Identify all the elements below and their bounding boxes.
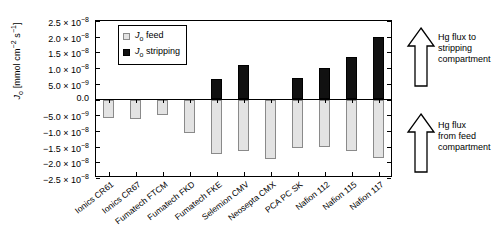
x-tick-mark-zero <box>379 99 380 103</box>
chart-legend: Jo feedJo stripping <box>118 25 187 65</box>
x-tick-mark-zero <box>217 99 218 103</box>
y-tick-label: 1.5 × 10−8 <box>48 46 89 59</box>
arrow-up-stripping-icon <box>406 26 436 88</box>
y-tick-label: −2.0 × 10−8 <box>43 156 89 169</box>
bar-feed <box>346 100 357 152</box>
x-tick-mark <box>244 172 245 176</box>
x-tick-mark-zero <box>244 99 245 103</box>
x-tick-mark <box>217 172 218 176</box>
x-tick-mark-zero <box>352 99 353 103</box>
annotation-flux-from-feed: Hg fluxfrom feedcompartment <box>438 120 502 153</box>
legend-swatch <box>123 33 130 40</box>
bar-stripping <box>211 79 222 99</box>
legend-label: Jo feed <box>135 29 163 45</box>
legend-swatch <box>123 49 130 56</box>
x-tick-mark-zero <box>136 99 137 103</box>
bar-feed <box>292 100 303 149</box>
annotation-line: stripping <box>438 43 502 54</box>
x-tick-mark-zero <box>298 99 299 103</box>
y-tick-label: 5.0 × 10−9 <box>48 78 89 91</box>
annotation-line: compartment <box>438 142 502 153</box>
y-tick-label: −1.0 × 10−8 <box>43 125 89 138</box>
bar-stripping <box>319 68 330 99</box>
y-tick-label: −5.0 × 10−9 <box>43 109 89 122</box>
y-tick-label: 2.5 × 10−8 <box>48 15 89 28</box>
bar-feed <box>184 100 195 134</box>
annotation-line: Hg flux to <box>438 32 502 43</box>
annotation-line: Hg flux <box>438 120 502 131</box>
x-tick-mark <box>136 172 137 176</box>
y-tick-label: 2.0 × 10−8 <box>48 31 89 44</box>
chart-figure: Jo [mmol cm−2 s−1] 2.5 × 10−82.0 × 10−81… <box>0 0 504 241</box>
legend-item: Jo feed <box>123 29 180 45</box>
bar-stripping <box>238 65 249 100</box>
x-tick-mark-zero <box>190 99 191 103</box>
x-tick-mark-zero <box>163 99 164 103</box>
bar-stripping <box>346 57 357 99</box>
x-axis-tick-labels: Ionics CR61Ionics CR67Fumatech FTCMFumat… <box>95 178 392 241</box>
x-tick-mark-zero <box>325 99 326 103</box>
legend-item: Jo stripping <box>123 45 180 61</box>
x-tick-mark <box>190 172 191 176</box>
x-tick-mark <box>298 172 299 176</box>
bar-feed <box>319 100 330 147</box>
x-tick-mark <box>109 172 110 176</box>
x-tick-mark <box>352 172 353 176</box>
x-tick-mark <box>325 172 326 176</box>
annotation-flux-to-stripping: Hg flux tostrippingcompartment <box>438 32 502 65</box>
x-tick-mark-zero <box>271 99 272 103</box>
y-tick-label: 0.0 <box>76 94 89 103</box>
x-tick-mark-zero <box>109 99 110 103</box>
y-tick-label: −2.5 × 10−8 <box>43 172 89 185</box>
legend-label: Jo stripping <box>135 45 180 61</box>
x-tick-mark <box>271 172 272 176</box>
y-tick-label: 1.0 × 10−8 <box>48 62 89 75</box>
annotation-line: from feed <box>438 131 502 142</box>
bar-feed <box>373 100 384 158</box>
x-tick-mark <box>379 172 380 176</box>
bar-stripping <box>292 78 303 99</box>
annotation-line: compartment <box>438 54 502 65</box>
x-tick-mark <box>163 172 164 176</box>
arrow-up-feed-icon <box>406 112 436 174</box>
bar-stripping <box>373 37 384 100</box>
y-tick-label: −1.5 × 10−8 <box>43 141 89 154</box>
